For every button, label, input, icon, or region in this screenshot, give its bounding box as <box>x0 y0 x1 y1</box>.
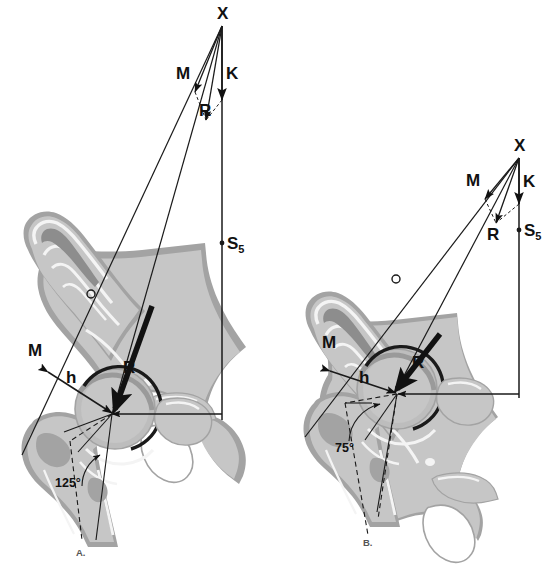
panel-b-label-x: X <box>514 136 526 155</box>
panel-b-label-m-vector: M <box>466 171 480 190</box>
panel-b-label-k-vector: K <box>523 172 536 191</box>
panel-a-label-m-line: M <box>28 341 42 360</box>
panel-a-label-x: X <box>217 4 229 23</box>
panel-b: X M K R S5 M h R 75° B. <box>303 136 541 562</box>
panel-a-caption: A. <box>76 547 86 558</box>
panel-a-s5-dot <box>220 241 225 246</box>
panel-b-s5-dot <box>517 228 522 233</box>
panel-b-label-r-bold: R <box>412 353 424 372</box>
figure-canvas: X M K R S5 M h R 125° A. <box>0 0 555 570</box>
panel-b-caption: B. <box>363 537 373 548</box>
panel-b-label-m-line: M <box>322 333 336 352</box>
panel-b-m-vector <box>485 158 519 199</box>
panel-a-label-h: h <box>66 368 76 387</box>
panel-b-label-h: h <box>359 368 369 387</box>
panel-a-label-r-vector: R <box>199 101 211 120</box>
panel-a-femur-bone <box>21 367 161 547</box>
panel-a-label-s5: S5 <box>227 234 244 255</box>
panel-b-r-vector <box>496 158 519 223</box>
panel-a-m-vector <box>195 26 222 92</box>
panel-a-label-k-vector: K <box>226 64 239 83</box>
panel-a-angle-label: 125° <box>55 476 81 490</box>
hip-biomechanics-figure: X M K R S5 M h R 125° A. <box>0 0 555 570</box>
panel-a-label-r-bold: R <box>123 358 135 377</box>
panel-a: X M K R S5 M h R 125° A. <box>21 4 246 558</box>
panel-b-muscle-origin-marker <box>392 275 400 283</box>
panel-b-label-r-vector: R <box>487 225 499 244</box>
panel-b-label-s5: S5 <box>524 221 541 242</box>
panel-a-label-m-vector: M <box>176 64 190 83</box>
panel-b-angle-label: 75° <box>335 441 354 455</box>
